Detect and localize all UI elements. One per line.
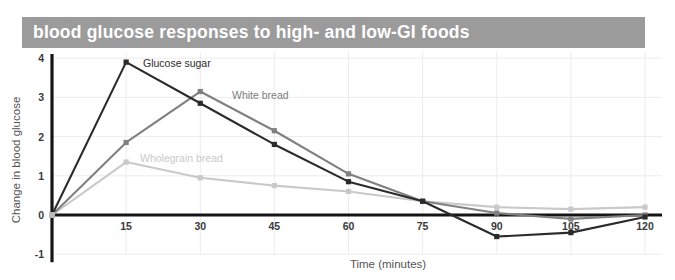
- series-label-white-bread: White bread: [232, 89, 289, 101]
- series-marker: [272, 183, 277, 188]
- series-marker: [642, 205, 647, 210]
- series-label-glucose-sugar: Glucose sugar: [143, 57, 211, 69]
- series-marker: [198, 175, 203, 180]
- series-marker: [420, 199, 425, 204]
- series-marker: [124, 159, 129, 164]
- x-tick-label: 90: [491, 220, 503, 232]
- x-tick-label: 60: [343, 220, 355, 232]
- x-tick-label: 30: [194, 220, 206, 232]
- series-marker: [124, 60, 129, 65]
- series-marker: [198, 89, 203, 94]
- series-marker: [272, 142, 277, 147]
- series-marker: [272, 128, 277, 133]
- origin-marker: [49, 212, 55, 218]
- series-marker: [568, 230, 573, 235]
- series-marker: [346, 179, 351, 184]
- y-tick-label: 0: [38, 209, 44, 221]
- series-marker: [198, 101, 203, 106]
- y-tick-labels-group: 43210-1: [35, 52, 45, 260]
- chart-figure: blood glucose responses to high- and low…: [0, 0, 675, 280]
- series-marker: [568, 216, 573, 221]
- series-marker: [346, 189, 351, 194]
- y-tick-label: 4: [38, 52, 44, 64]
- series-marker: [124, 140, 129, 145]
- series-marker: [494, 234, 499, 239]
- y-tick-label: -1: [35, 248, 44, 260]
- series-marker: [494, 210, 499, 215]
- series-label-wholegrain-bread: Wholegrain bread: [140, 152, 223, 164]
- series-marker: [642, 214, 647, 219]
- x-tick-label: 45: [269, 220, 281, 232]
- series-marker: [494, 205, 499, 210]
- y-axis-title: Change in blood glucose: [10, 97, 22, 224]
- y-tick-label: 2: [38, 131, 44, 143]
- x-tick-label: 75: [417, 220, 429, 232]
- y-tick-label: 3: [38, 91, 44, 103]
- x-tick-label: 120: [636, 220, 654, 232]
- x-axis-title: Time (minutes): [350, 258, 426, 270]
- y-tick-label: 1: [38, 170, 44, 182]
- x-tick-label: 15: [120, 220, 132, 232]
- series-marker: [346, 171, 351, 176]
- x-tick-labels-group: 153045607590105120: [120, 220, 654, 232]
- series-marker: [568, 207, 573, 212]
- line-chart-plot: 43210-1 153045607590105120 Glucose sugar…: [0, 0, 675, 280]
